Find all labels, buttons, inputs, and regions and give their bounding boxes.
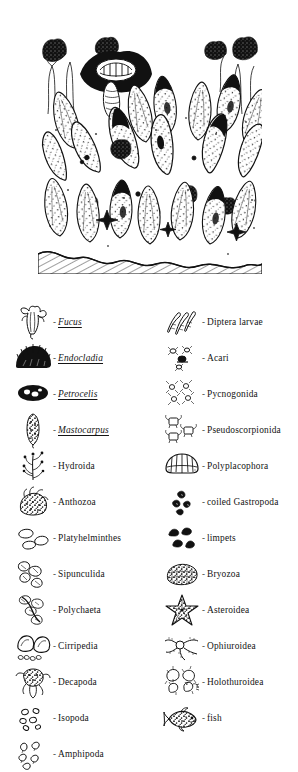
legend-label: Pycnogonida — [207, 389, 258, 399]
legend-row: -Pseudoscorpionida — [149, 412, 298, 448]
legend-label: Polychaeta — [58, 605, 101, 615]
legend-row: -Pycnogonida — [149, 376, 298, 412]
legend-label: Asteroidea — [207, 605, 249, 615]
fish-icon — [163, 701, 201, 735]
legend-dash: - — [202, 570, 205, 579]
legend-dash: - — [53, 570, 56, 579]
legend-dash: - — [202, 390, 205, 399]
legend-row: -Asteroidea — [149, 592, 298, 628]
legend-row: -limpets — [149, 520, 298, 556]
platyhelminthes-flatworm-icon — [14, 521, 52, 555]
legend-row: -Acari — [149, 340, 298, 376]
cirripedia-barnacle-icon — [14, 629, 52, 663]
legend-row: -Sipunculida — [0, 556, 149, 592]
legend-label: Sipunculida — [58, 569, 105, 579]
legend-dash: - — [202, 678, 205, 687]
legend-dash: - — [202, 354, 205, 363]
legend-row: -Holothuroidea — [149, 664, 298, 700]
diptera-larvae-icon — [163, 305, 201, 339]
ophiuroidea-brittlestar-icon — [163, 629, 201, 663]
legend-label: Mastocarpus — [58, 425, 109, 435]
legend-label: Isopoda — [58, 713, 89, 723]
polychaeta-bristleworm-icon — [14, 593, 52, 627]
bryozoa-colony-icon — [163, 557, 201, 591]
legend-row: -Fucus — [0, 304, 149, 340]
legend-row: -Bryozoa — [149, 556, 298, 592]
legend-label: Diptera larvae — [207, 317, 263, 327]
legend-row: -Mastocarpus — [0, 412, 149, 448]
intertidal-illustration — [38, 22, 262, 274]
legend-dash: - — [202, 714, 205, 723]
legend-dash: - — [202, 318, 205, 327]
legend-dash: - — [53, 318, 56, 327]
legend-dash: - — [53, 354, 56, 363]
pycnogonida-seaspider-icon — [163, 377, 201, 411]
decapoda-crab-icon — [14, 665, 52, 699]
legend-dash: - — [53, 390, 56, 399]
legend-label: Fucus — [58, 317, 82, 327]
legend-row: -Amphipoda — [0, 736, 149, 772]
legend-row: -coiled Gastropoda — [149, 484, 298, 520]
legend-label: Hydroida — [58, 461, 95, 471]
legend-dash: - — [202, 642, 205, 651]
legend-dash: - — [202, 426, 205, 435]
legend-dash: - — [202, 498, 205, 507]
fucus-frond-icon — [14, 305, 52, 339]
legend-label: Polyplacophora — [207, 461, 268, 471]
legend-row: -Hydroida — [0, 448, 149, 484]
legend-row: -Decapoda — [0, 664, 149, 700]
asteroidea-seastar-icon — [163, 593, 201, 627]
legend-row: -Petrocelis — [0, 376, 149, 412]
legend-label: fish — [207, 713, 222, 723]
legend-label: Acari — [207, 353, 229, 363]
legend-row: -Diptera larvae — [149, 304, 298, 340]
anthozoa-anemone-icon — [14, 485, 52, 519]
acari-mite-icon — [163, 341, 201, 375]
legend-dash: - — [202, 462, 205, 471]
legend-dash: - — [53, 714, 56, 723]
legend-dash: - — [53, 750, 56, 759]
legend-dash: - — [53, 426, 56, 435]
legend-label: Petrocelis — [58, 389, 97, 399]
legend-label: Anthozoa — [58, 497, 96, 507]
legend-dash: - — [202, 606, 205, 615]
legend-dash: - — [53, 642, 56, 651]
legend-label: Platyhelminthes — [58, 533, 121, 543]
legend-label: Cirripedia — [58, 641, 98, 651]
holothuroidea-seacucumber-icon — [163, 665, 201, 699]
legend-dash: - — [53, 498, 56, 507]
mastocarpus-blade-icon — [14, 413, 52, 447]
legend-label: Bryozoa — [207, 569, 240, 579]
legend-row: -Cirripedia — [0, 628, 149, 664]
legend-row: -Platyhelminthes — [0, 520, 149, 556]
illustration-drawing — [38, 22, 262, 274]
legend-row: -Polychaeta — [0, 592, 149, 628]
legend-label: Ophiuroidea — [207, 641, 256, 651]
isopoda-icon — [14, 701, 52, 735]
endocladia-turf-icon — [14, 341, 52, 375]
legend-row: -Polyplacophora — [149, 448, 298, 484]
legend-dash: - — [53, 606, 56, 615]
polyplacophora-chiton-icon — [163, 449, 201, 483]
legend-row: -fish — [149, 700, 298, 736]
legend-dash: - — [53, 678, 56, 687]
sipunculida-peanutworm-icon — [14, 557, 52, 591]
legend-dash: - — [53, 534, 56, 543]
legend-label: limpets — [207, 533, 236, 543]
legend-row: -Ophiuroidea — [149, 628, 298, 664]
legend-label: Endocladia — [58, 353, 103, 363]
amphipoda-icon — [14, 737, 52, 771]
legend-label: Amphipoda — [58, 749, 104, 759]
petrocelis-crust-icon — [14, 377, 52, 411]
pseudoscorpionida-icon — [163, 413, 201, 447]
legend-dash: - — [202, 534, 205, 543]
species-legend: -Fucus-Endocladia-Petrocelis-Mastocarpus… — [0, 296, 298, 684]
legend-label: Holothuroidea — [207, 677, 264, 687]
limpets-icon — [163, 521, 201, 555]
hydroida-colony-icon — [14, 449, 52, 483]
legend-row: -Anthozoa — [0, 484, 149, 520]
legend-label: Decapoda — [58, 677, 97, 687]
legend-row: -Isopoda — [0, 700, 149, 736]
legend-label: Pseudoscorpionida — [207, 425, 281, 435]
legend-dash: - — [53, 462, 56, 471]
